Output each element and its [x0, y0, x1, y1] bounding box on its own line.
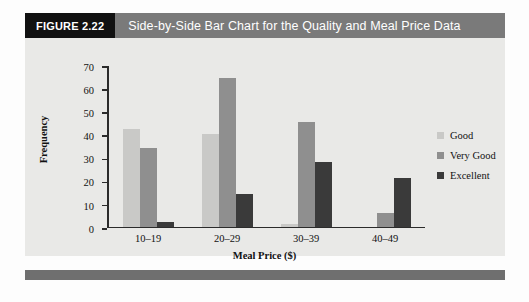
- bar-group: 30–39: [267, 66, 346, 227]
- y-axis-tick: 50: [102, 112, 107, 114]
- footer-rule: [25, 270, 505, 280]
- y-axis-tick: 20: [102, 182, 107, 184]
- legend-label: Good: [450, 130, 473, 141]
- bar-groups: 10–1920–2930–3940–49: [109, 66, 425, 227]
- y-axis-tick-label: 20: [84, 177, 95, 188]
- figure-page: FIGURE 2.22 Side-by-Side Bar Chart for t…: [0, 0, 529, 302]
- figure-title: Side-by-Side Bar Chart for the Quality a…: [115, 13, 505, 38]
- x-axis-label: Meal Price ($): [107, 250, 422, 261]
- plot-area: 706050403020100 10–1920–2930–3940–49: [107, 66, 422, 228]
- bar-excellent[interactable]: [157, 222, 174, 227]
- legend-item[interactable]: Excellent: [437, 170, 496, 181]
- y-axis-tick-label: 70: [84, 61, 95, 72]
- bar-good[interactable]: [281, 224, 298, 226]
- bar-verygood[interactable]: [298, 122, 315, 226]
- figure-header: FIGURE 2.22 Side-by-Side Bar Chart for t…: [25, 13, 505, 38]
- figure-number-label: FIGURE 2.22: [25, 13, 115, 38]
- legend-swatch-icon: [437, 132, 444, 139]
- bar-group: 10–19: [109, 66, 188, 227]
- legend-item[interactable]: Very Good: [437, 150, 496, 161]
- x-axis-tick-label: 10–19: [135, 233, 161, 244]
- x-axis-tick-label: 30–39: [293, 233, 319, 244]
- y-axis-tick-label: 0: [89, 223, 94, 234]
- y-axis-tick-label: 60: [84, 84, 95, 95]
- bar-group: 20–29: [188, 66, 267, 227]
- bar-excellent[interactable]: [315, 162, 332, 227]
- x-axis-tick-label: 40–49: [372, 233, 398, 244]
- y-axis-tick-label: 50: [84, 108, 95, 119]
- bar-excellent[interactable]: [236, 194, 253, 226]
- y-axis-tick: 30: [102, 159, 107, 161]
- bar-verygood[interactable]: [377, 213, 394, 227]
- bar-good[interactable]: [123, 129, 140, 226]
- legend-label: Very Good: [450, 150, 496, 161]
- legend-swatch-icon: [437, 172, 444, 179]
- bar-excellent[interactable]: [394, 178, 411, 227]
- bar-verygood[interactable]: [219, 78, 236, 226]
- legend-item[interactable]: Good: [437, 130, 496, 141]
- y-axis-tick: 70: [102, 66, 107, 68]
- bar-group: 40–49: [346, 66, 425, 227]
- y-axis-label: Frequency: [38, 116, 49, 164]
- bar-verygood[interactable]: [140, 148, 157, 227]
- x-axis-line: [107, 227, 425, 229]
- legend-swatch-icon: [437, 152, 444, 159]
- legend-label: Excellent: [450, 170, 490, 181]
- y-axis-tick: 40: [102, 135, 107, 137]
- chart-panel: Frequency 706050403020100 10–1920–2930–3…: [25, 38, 505, 256]
- y-axis-tick-label: 10: [84, 200, 95, 211]
- y-axis-tick-label: 40: [84, 131, 95, 142]
- x-axis-tick-label: 20–29: [214, 233, 240, 244]
- chart-legend: GoodVery GoodExcellent: [437, 130, 496, 181]
- y-axis-tick-label: 30: [84, 154, 95, 165]
- y-axis-tick: 10: [102, 205, 107, 207]
- y-axis-tick: 0: [102, 228, 107, 230]
- y-axis-tick: 60: [102, 89, 107, 91]
- bar-good[interactable]: [202, 134, 219, 227]
